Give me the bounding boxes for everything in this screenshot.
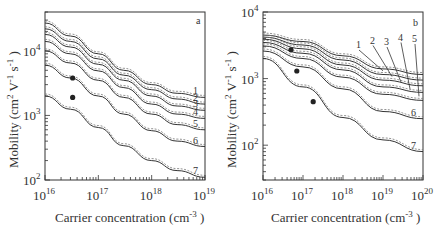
panel-a-plot-frame: [45, 12, 205, 180]
curve-4: [263, 42, 423, 92]
panel-a: a 1016101710181019 102103104 1234567 Car…: [5, 12, 216, 225]
panel-b: b 10161017101810191020 102103104 1234567…: [223, 3, 434, 225]
curve-label-7: 7: [193, 165, 198, 176]
x-tick-label: 1018: [331, 186, 354, 203]
x-tick-label: 1019: [371, 186, 394, 203]
panel-b-y-tick-labels: 102103104: [241, 3, 259, 153]
panel-a-y-tick-labels: 102103104: [23, 42, 41, 188]
panel-a-x-tick-labels: 1016101710181019: [33, 186, 216, 203]
curve-7: [263, 59, 423, 152]
figure: a 1016101710181019 102103104 1234567 Car…: [0, 0, 441, 229]
curve-5: [45, 51, 205, 130]
x-tick-label: 1020: [411, 186, 434, 203]
panel-a-curve-labels: 1234567: [193, 85, 198, 176]
y-tick-label: 102: [23, 171, 41, 188]
curve-label-5: 5: [193, 118, 198, 129]
curve-label-2: 2: [370, 35, 375, 46]
y-tick-label: 103: [241, 70, 259, 87]
curve-label-6: 6: [193, 135, 198, 146]
y-tick-label: 104: [241, 3, 259, 20]
panel-a-ticks: [45, 12, 205, 180]
panel-a-label: a: [196, 15, 201, 26]
panel-b-y-axis-label: Mobility (cm2 V-1 s-1 ): [223, 51, 239, 168]
panel-a-markers: [70, 75, 75, 100]
curve-label-4: 4: [193, 106, 198, 117]
panel-b-x-axis-label: Carrier concentration (cm-3 ): [271, 209, 420, 225]
curve-6: [263, 51, 423, 119]
x-tick-label: 1016: [33, 186, 56, 203]
y-tick-label: 103: [23, 106, 41, 123]
curve-label-5: 5: [412, 33, 417, 44]
data-point-marker: [288, 47, 293, 52]
panel-b-curves: [263, 33, 423, 152]
panel-b-x-tick-labels: 10161017101810191020: [251, 186, 434, 203]
curve-label-3: 3: [384, 36, 389, 47]
panel-a-x-axis-label: Carrier concentration (cm-3 ): [55, 209, 204, 225]
x-tick-label: 1017: [86, 186, 109, 203]
x-tick-label: 1017: [291, 186, 314, 203]
curve-label-7: 7: [411, 140, 416, 151]
chart-svg: a 1016101710181019 102103104 1234567 Car…: [0, 0, 441, 229]
x-tick-label: 1016: [251, 186, 274, 203]
curve-label-6: 6: [411, 107, 416, 118]
panel-b-markers: [288, 47, 315, 104]
curve-5: [263, 46, 423, 101]
curve-2: [45, 29, 205, 104]
data-point-marker: [70, 75, 75, 80]
x-tick-label: 1018: [140, 186, 163, 203]
dashed-curve-1: [45, 21, 205, 95]
curve-label-4: 4: [398, 32, 403, 43]
x-tick-label: 1019: [193, 186, 216, 203]
leader-line-5: [415, 44, 419, 96]
dashed-curve-6: [263, 49, 423, 117]
dashed-curve-2: [45, 27, 205, 102]
data-point-marker: [311, 99, 316, 104]
curve-7: [45, 96, 205, 177]
leader-line-3: [387, 47, 401, 82]
y-tick-label: 104: [23, 42, 41, 59]
data-point-marker: [70, 95, 75, 100]
panel-b-label: b: [413, 17, 418, 28]
data-point-marker: [294, 68, 299, 73]
panel-a-curves: [45, 21, 205, 177]
dashed-curve-5: [45, 49, 205, 128]
panel-a-y-axis-label: Mobility (cm2 V-1 s-1 ): [5, 51, 21, 168]
curve-label-1: 1: [356, 39, 361, 50]
y-tick-label: 102: [241, 136, 259, 153]
